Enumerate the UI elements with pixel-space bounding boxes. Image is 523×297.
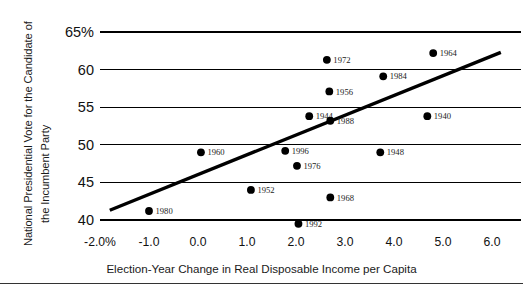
data-point-label: 1940 <box>434 111 451 121</box>
data-point-1952[interactable]: 1952 <box>247 185 275 195</box>
x-tick-label-3.0: 3.0 <box>337 236 354 248</box>
data-point-1956[interactable]: 1956 <box>325 87 353 97</box>
x-tick-label--1.0: -1.0 <box>138 236 159 248</box>
data-point-1992[interactable]: 1992 <box>295 219 323 229</box>
x-tick-label-1.0: 1.0 <box>239 236 256 248</box>
data-point-1948[interactable]: 1948 <box>376 147 404 157</box>
data-point-1988[interactable]: 1988 <box>326 116 354 126</box>
data-point-marker[interactable] <box>423 112 431 120</box>
x-tick-label--2.0%: -2.0% <box>84 236 116 248</box>
x-axis-title: Election-Year Change in Real Disposable … <box>0 262 523 275</box>
data-point-marker[interactable] <box>429 49 437 57</box>
data-point-marker[interactable] <box>145 207 153 215</box>
trend-line <box>110 52 501 210</box>
data-point-marker[interactable] <box>326 117 334 125</box>
data-point-marker[interactable] <box>247 186 255 194</box>
x-tick-label-0.0: 0.0 <box>190 236 207 248</box>
data-point-marker[interactable] <box>379 72 387 80</box>
bottom-divider <box>0 283 523 284</box>
x-axis-tick-labels: -2.0%-1.00.01.02.03.04.05.06.0 <box>0 236 523 254</box>
data-point-label: 1988 <box>337 116 354 126</box>
data-point-label: 1980 <box>156 206 173 216</box>
data-point-label: 1968 <box>337 193 354 203</box>
data-point-1968[interactable]: 1968 <box>326 193 354 203</box>
data-point-label: 1992 <box>305 219 322 229</box>
data-point-label: 1960 <box>207 147 224 157</box>
data-point-1972[interactable]: 1972 <box>323 55 351 65</box>
x-tick-label-6.0: 6.0 <box>484 236 501 248</box>
data-point-marker[interactable] <box>197 148 205 156</box>
data-point-1976[interactable]: 1976 <box>293 161 321 171</box>
scatter-chart-figure: National Presidential Vote for the Candi… <box>0 0 523 297</box>
data-point-1996[interactable]: 1996 <box>281 146 309 156</box>
data-point-label: 1976 <box>303 161 321 171</box>
data-point-label: 1948 <box>387 147 404 157</box>
data-point-1940[interactable]: 1940 <box>423 111 451 121</box>
data-point-label: 1964 <box>440 48 458 58</box>
data-point-1980[interactable]: 1980 <box>145 206 173 216</box>
data-point-1964[interactable]: 1964 <box>429 48 457 58</box>
data-point-marker[interactable] <box>326 194 334 202</box>
data-point-1984[interactable]: 1984 <box>379 71 407 81</box>
x-tick-label-4.0: 4.0 <box>386 236 403 248</box>
data-point-marker[interactable] <box>323 56 331 64</box>
x-tick-label-2.0: 2.0 <box>288 236 305 248</box>
x-tick-label-5.0: 5.0 <box>435 236 452 248</box>
data-point-label: 1996 <box>292 146 310 156</box>
data-point-marker[interactable] <box>293 162 301 170</box>
data-point-marker[interactable] <box>305 112 313 120</box>
data-point-marker[interactable] <box>295 220 303 228</box>
data-point-label: 1956 <box>336 87 354 97</box>
data-point-marker[interactable] <box>376 148 384 156</box>
data-point-marker[interactable] <box>281 147 289 155</box>
data-point-1960[interactable]: 1960 <box>197 147 225 157</box>
data-point-label: 1972 <box>333 55 350 65</box>
data-point-marker[interactable] <box>325 88 333 96</box>
data-point-label: 1984 <box>390 71 408 81</box>
data-point-label: 1952 <box>257 185 274 195</box>
